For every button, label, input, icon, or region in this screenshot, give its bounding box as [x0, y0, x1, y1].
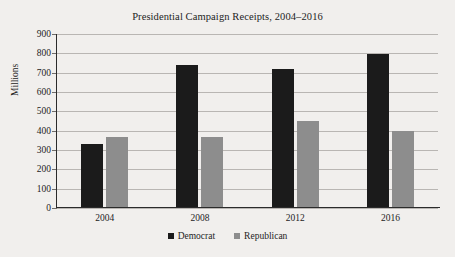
- y-tick-label: 200: [18, 164, 51, 174]
- bar-democrat-2016: [367, 54, 389, 208]
- x-axis-line: [57, 207, 440, 208]
- y-tick-label: 100: [18, 184, 51, 194]
- legend-swatch-icon: [234, 233, 240, 239]
- y-tick-label: 600: [18, 87, 51, 97]
- y-axis-line: [56, 34, 57, 208]
- y-tick-label: 900: [18, 29, 51, 39]
- bar-republican-2016: [392, 131, 414, 208]
- y-tick-label: 400: [18, 126, 51, 136]
- plot-area: [57, 34, 438, 208]
- y-tick-label: 500: [18, 106, 51, 116]
- x-tick-label: 2012: [286, 213, 305, 223]
- legend-label: Republican: [244, 231, 287, 241]
- x-tick-label: 2004: [95, 213, 114, 223]
- gridline: [57, 34, 438, 35]
- y-tick-label: 700: [18, 68, 51, 78]
- legend-item-democrat[interactable]: Democrat: [168, 231, 215, 241]
- bar-republican-2004: [106, 137, 128, 208]
- y-tick-label: 0: [18, 203, 51, 213]
- x-tick-label: 2008: [190, 213, 209, 223]
- bar-democrat-2012: [272, 69, 294, 208]
- x-tick-label: 2016: [381, 213, 400, 223]
- y-axis-title: Millions: [10, 64, 20, 96]
- chart-legend: DemocratRepublican: [0, 231, 455, 241]
- chart-title: Presidential Campaign Receipts, 2004–201…: [0, 11, 455, 22]
- bar-republican-2008: [201, 137, 223, 208]
- legend-swatch-icon: [168, 233, 174, 239]
- bar-republican-2012: [297, 121, 319, 208]
- legend-label: Democrat: [178, 231, 215, 241]
- y-tick-label: 800: [18, 48, 51, 58]
- bar-democrat-2004: [81, 144, 103, 208]
- bar-chart: Presidential Campaign Receipts, 2004–201…: [0, 0, 455, 257]
- legend-item-republican[interactable]: Republican: [234, 231, 287, 241]
- bar-democrat-2008: [176, 65, 198, 208]
- y-tick-label: 300: [18, 145, 51, 155]
